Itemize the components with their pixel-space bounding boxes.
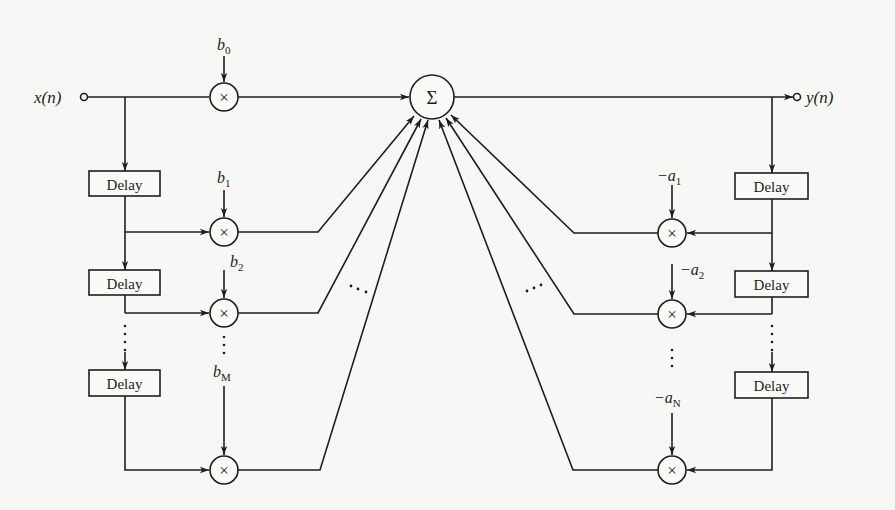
multiply-icon: × xyxy=(219,88,229,107)
feedback-to-sum-paths xyxy=(439,115,658,470)
multiply-icon: × xyxy=(667,461,677,480)
direct-form-diagram: x(n) b0 × Σ y(n) Delay Delay Delay xyxy=(0,0,895,510)
multiplier-neg-aN: −aN × xyxy=(654,389,686,484)
svg-text:bM: bM xyxy=(213,363,231,383)
output-label: y(n) xyxy=(804,88,834,107)
svg-text:Delay: Delay xyxy=(754,277,790,293)
multiplier-neg-a1: −a1 × xyxy=(657,167,686,247)
multiply-icon: × xyxy=(667,305,677,324)
svg-text:b0: b0 xyxy=(217,36,231,56)
multiplier-b0: b0 × xyxy=(210,36,238,111)
svg-text:Delay: Delay xyxy=(107,276,143,292)
multiplier-bM: bM × xyxy=(210,363,238,484)
diagram-canvas: x(n) b0 × Σ y(n) Delay Delay Delay xyxy=(0,0,895,510)
svg-text:Delay: Delay xyxy=(754,378,790,394)
multiply-icon: × xyxy=(219,223,229,242)
multiply-icon: × xyxy=(219,461,229,480)
svg-text:−aN: −aN xyxy=(654,389,681,409)
svg-text:Delay: Delay xyxy=(754,179,790,195)
multiply-icon: × xyxy=(667,224,677,243)
feedforward-chain: Delay Delay Delay xyxy=(89,97,209,470)
input-label: x(n) xyxy=(33,88,62,107)
multiply-icon: × xyxy=(219,304,229,323)
sigma-icon: Σ xyxy=(426,87,437,108)
input-terminal xyxy=(81,94,88,101)
svg-text:−a1: −a1 xyxy=(657,167,681,187)
output-terminal xyxy=(794,94,801,101)
svg-text:Delay: Delay xyxy=(107,177,143,193)
svg-text:b2: b2 xyxy=(230,253,244,273)
multiplier-b2: b2 × xyxy=(210,253,244,354)
feedforward-to-sum-paths xyxy=(238,116,428,470)
multiplier-b1: b1 × xyxy=(210,169,238,246)
svg-text:Delay: Delay xyxy=(107,376,143,392)
svg-text:−a2: −a2 xyxy=(680,261,704,281)
svg-text:b1: b1 xyxy=(217,169,231,189)
summing-node: Σ xyxy=(410,75,454,119)
feedback-chain: Delay Delay Delay xyxy=(687,97,808,470)
